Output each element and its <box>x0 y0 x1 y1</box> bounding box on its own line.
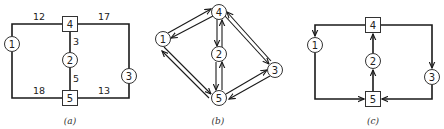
weight-a-4-3: 17 <box>98 11 110 22</box>
svg-text:1: 1 <box>9 39 15 50</box>
svg-text:5: 5 <box>370 94 376 105</box>
panel-a: 12 17 3 5 18 13 1 4 2 3 5 (a) <box>5 11 137 126</box>
svg-text:5: 5 <box>67 93 73 104</box>
weight-a-5-3: 13 <box>98 85 110 96</box>
node-c-1: 1 <box>308 38 323 53</box>
weight-a-1-4: 12 <box>33 11 45 22</box>
arc-b-1-to-5 <box>164 47 211 94</box>
weight-a-4-2: 3 <box>73 36 79 47</box>
arc-c-4-to-1 <box>315 25 365 36</box>
node-a-1: 1 <box>5 37 20 52</box>
edge-a-1-4 <box>12 24 63 36</box>
svg-text:4: 4 <box>370 20 376 31</box>
node-c-3: 3 <box>425 70 440 85</box>
caption-c: (c) <box>367 116 380 126</box>
caption-b: (b) <box>212 116 225 126</box>
node-a-4: 4 <box>63 17 78 32</box>
svg-text:3: 3 <box>272 65 278 76</box>
node-b-3: 3 <box>268 63 283 78</box>
svg-text:4: 4 <box>67 19 73 30</box>
weight-a-2-5: 5 <box>73 73 79 84</box>
arc-c-3-to-5 <box>382 85 432 99</box>
node-c-5: 5 <box>366 92 381 107</box>
svg-text:1: 1 <box>160 34 166 45</box>
node-a-5: 5 <box>63 91 78 106</box>
arc-c-4-to-3 <box>381 25 432 68</box>
arc-b-3-to-5 <box>229 76 270 99</box>
node-b-1: 1 <box>156 32 171 47</box>
arc-b-3-to-4 <box>227 12 271 61</box>
weight-a-1-5: 18 <box>33 85 45 96</box>
edge-a-4-3 <box>78 24 129 69</box>
caption-a: (a) <box>64 116 77 126</box>
svg-text:2: 2 <box>370 56 376 67</box>
node-c-4: 4 <box>366 18 381 33</box>
svg-text:2: 2 <box>67 55 73 66</box>
panel-b: 1 4 2 3 5 (b) <box>156 5 283 127</box>
svg-text:4: 4 <box>216 7 222 18</box>
panel-c: 1 4 2 3 5 (c) <box>308 18 440 127</box>
arc-b-5-to-3 <box>226 70 267 94</box>
arc-b-4-to-3 <box>225 16 269 64</box>
arc-b-5-to-1 <box>162 51 209 98</box>
svg-text:3: 3 <box>429 72 435 83</box>
svg-text:2: 2 <box>216 49 222 60</box>
node-b-4: 4 <box>212 5 227 20</box>
node-b-2: 2 <box>212 47 227 62</box>
node-a-3: 3 <box>122 69 137 84</box>
node-a-2: 2 <box>63 53 78 68</box>
node-b-5: 5 <box>212 91 227 106</box>
svg-text:3: 3 <box>126 71 132 82</box>
svg-text:5: 5 <box>216 93 222 104</box>
svg-text:1: 1 <box>312 40 318 51</box>
network-figure: 12 17 3 5 18 13 1 4 2 3 5 (a) <box>0 0 444 129</box>
arc-c-1-to-5 <box>315 53 364 99</box>
node-c-2: 2 <box>366 54 381 69</box>
